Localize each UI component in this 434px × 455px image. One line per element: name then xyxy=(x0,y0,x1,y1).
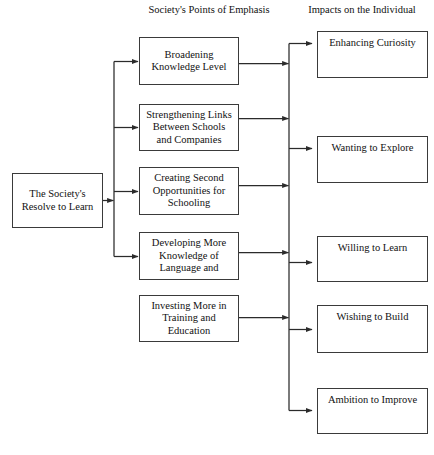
node-creating-second-opportunities-label: Creating Second Opportunities for School… xyxy=(153,172,226,209)
node-broadening-knowledge-level-label: Broadening Knowledge Level xyxy=(152,49,227,74)
column-header-impacts: Impacts on the Individual xyxy=(290,4,434,16)
node-wishing-to-build[interactable]: Wishing to Build xyxy=(317,305,428,353)
node-strengthening-links[interactable]: Strengthening Links Between Schools and … xyxy=(139,104,239,151)
node-willing-to-learn[interactable]: Willing to Learn xyxy=(317,236,428,282)
node-line-1: The Society's xyxy=(29,188,85,199)
node-line-3: Language and xyxy=(159,262,218,273)
node-line-2: Knowledge of xyxy=(159,250,219,261)
node-line-3: and Companies xyxy=(156,134,221,145)
node-creating-second-opportunities[interactable]: Creating Second Opportunities for School… xyxy=(139,167,239,215)
node-society-resolve[interactable]: The Society's Resolve to Learn xyxy=(12,173,103,228)
node-line-3: Education xyxy=(168,325,211,336)
node-line-2: Opportunities for xyxy=(153,185,226,196)
node-enhancing-curiosity-label: Enhancing Curiosity xyxy=(329,37,416,49)
node-line-2: Knowledge Level xyxy=(152,61,227,72)
node-line-1: Investing More in xyxy=(151,300,226,311)
node-society-resolve-label: The Society's Resolve to Learn xyxy=(22,188,94,213)
node-willing-to-learn-label: Willing to Learn xyxy=(338,242,408,254)
column-header-society: Society's Points of Emphasis xyxy=(96,4,322,16)
node-ambition-to-improve[interactable]: Ambition to Improve xyxy=(317,388,428,434)
node-line-1: Strengthening Links xyxy=(146,109,231,120)
node-line-1: Creating Second xyxy=(154,172,224,183)
node-line-1: Broadening xyxy=(165,49,214,60)
node-line-2: Resolve to Learn xyxy=(22,201,94,212)
node-investing-more-in-training-label: Investing More in Training and Education xyxy=(151,300,226,337)
node-investing-more-in-training[interactable]: Investing More in Training and Education xyxy=(139,295,239,342)
node-wanting-to-explore-label: Wanting to Explore xyxy=(332,142,414,154)
node-ambition-to-improve-label: Ambition to Improve xyxy=(328,394,417,406)
node-line-3: Schooling xyxy=(168,197,211,208)
node-enhancing-curiosity[interactable]: Enhancing Curiosity xyxy=(317,31,428,78)
node-strengthening-links-label: Strengthening Links Between Schools and … xyxy=(146,109,231,146)
node-wishing-to-build-label: Wishing to Build xyxy=(337,311,409,323)
node-line-2: Between Schools xyxy=(153,121,226,132)
node-line-2: Training and xyxy=(162,312,216,323)
node-wanting-to-explore[interactable]: Wanting to Explore xyxy=(317,136,428,183)
node-developing-more-knowledge-of-language[interactable]: Developing More Knowledge of Language an… xyxy=(139,232,239,280)
node-line-1: Developing More xyxy=(152,237,226,248)
node-broadening-knowledge-level[interactable]: Broadening Knowledge Level xyxy=(139,37,239,85)
node-developing-more-knowledge-of-language-label: Developing More Knowledge of Language an… xyxy=(152,237,226,274)
